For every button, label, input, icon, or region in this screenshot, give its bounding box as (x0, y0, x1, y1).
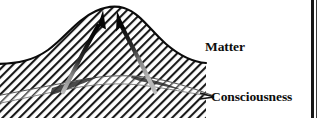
matter-bell-curve (0, 0, 214, 118)
label-consciousness: Consciousness (211, 90, 292, 104)
figure-container: Matter Consciousness (0, 0, 321, 118)
label-matter: Matter (205, 40, 245, 54)
page-border-thin (316, 0, 317, 118)
page-border (311, 0, 314, 118)
